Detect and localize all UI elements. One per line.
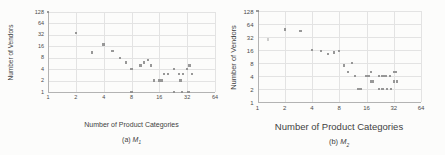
data-point bbox=[147, 59, 149, 61]
data-point bbox=[378, 75, 380, 77]
data-point bbox=[372, 80, 374, 82]
data-point bbox=[111, 50, 113, 52]
x-tick-label: 2 bbox=[275, 105, 295, 111]
data-point bbox=[393, 80, 395, 82]
x-axis bbox=[258, 102, 422, 103]
data-point bbox=[186, 68, 188, 70]
data-point bbox=[188, 64, 190, 66]
chart-m1-plot-area: 12864321684211248163264 bbox=[0, 0, 222, 155]
chart-m2-y-axis-label: Number of Vendors bbox=[229, 13, 238, 103]
chart-m2: 12864321684211248163264 Number of Vendor… bbox=[223, 0, 445, 155]
data-point bbox=[139, 64, 141, 66]
data-point bbox=[187, 91, 189, 93]
chart-m1-y-axis-label: Number of Vendors bbox=[7, 12, 14, 94]
data-point bbox=[320, 50, 322, 52]
data-point bbox=[256, 10, 258, 12]
data-point bbox=[390, 88, 392, 90]
data-point bbox=[284, 28, 286, 30]
y-tick-label: 128 bbox=[24, 10, 44, 16]
data-point bbox=[102, 43, 104, 45]
x-tick-label: 8 bbox=[122, 95, 142, 101]
x-tick-label: 1 bbox=[248, 105, 268, 111]
x-gridline bbox=[312, 11, 313, 102]
data-point bbox=[351, 62, 353, 64]
data-point bbox=[378, 88, 380, 90]
y-tick-label: 4 bbox=[24, 67, 44, 73]
data-point bbox=[354, 75, 356, 77]
data-point bbox=[191, 73, 193, 75]
data-point bbox=[389, 75, 391, 77]
data-point bbox=[178, 73, 180, 75]
data-point bbox=[173, 91, 175, 93]
data-point bbox=[311, 49, 313, 51]
x-tick-label: 16 bbox=[149, 95, 169, 101]
chart-m2-caption: (b) M2 bbox=[257, 137, 421, 148]
data-point bbox=[381, 88, 383, 90]
data-point bbox=[347, 71, 349, 73]
data-point bbox=[360, 88, 362, 90]
data-point bbox=[179, 79, 181, 81]
data-point bbox=[327, 53, 329, 55]
y-tick-label: 2 bbox=[24, 78, 44, 84]
x-gridline bbox=[394, 11, 395, 102]
data-point bbox=[119, 57, 121, 59]
data-point bbox=[267, 38, 269, 40]
data-point bbox=[143, 61, 145, 63]
data-point bbox=[173, 68, 175, 70]
data-point bbox=[338, 50, 340, 52]
data-point bbox=[384, 75, 386, 77]
x-tick-label: 16 bbox=[357, 105, 377, 111]
data-point bbox=[153, 79, 155, 81]
y-axis bbox=[48, 12, 49, 92]
data-point bbox=[91, 51, 93, 53]
data-point bbox=[167, 73, 169, 75]
y-tick-label: 64 bbox=[24, 21, 44, 27]
data-point bbox=[395, 71, 397, 73]
caption-prefix: (b) bbox=[329, 137, 338, 146]
data-point bbox=[130, 91, 132, 93]
data-point bbox=[386, 88, 388, 90]
y-tick-label: 8 bbox=[24, 55, 44, 61]
data-point bbox=[161, 79, 163, 81]
x-gridline bbox=[285, 11, 286, 102]
x-tick-label: 8 bbox=[329, 105, 349, 111]
x-gridline bbox=[339, 11, 340, 102]
x-gridline bbox=[76, 12, 77, 92]
x-gridline bbox=[367, 11, 368, 102]
x-tick-label: 4 bbox=[94, 95, 114, 101]
chart-m1: 12864321684211248163264 Number of Vendor… bbox=[0, 0, 222, 155]
x-gridline bbox=[215, 12, 216, 92]
data-point bbox=[125, 61, 127, 63]
data-point bbox=[370, 71, 372, 73]
chart-m2-x-axis-label: Number of Product Categories bbox=[241, 121, 437, 132]
data-point bbox=[75, 32, 77, 34]
x-tick-label: 4 bbox=[302, 105, 322, 111]
y-tick-label: 16 bbox=[24, 44, 44, 50]
data-point bbox=[368, 75, 370, 77]
x-tick-label: 64 bbox=[411, 105, 431, 111]
y-axis bbox=[258, 11, 259, 102]
x-gridline bbox=[104, 12, 105, 92]
chart-m1-caption: (a) M1 bbox=[48, 136, 215, 145]
y-tick-label: 32 bbox=[24, 32, 44, 38]
x-gridline bbox=[132, 12, 133, 92]
data-point bbox=[181, 91, 183, 93]
caption-prefix: (a) bbox=[122, 136, 131, 143]
data-point bbox=[47, 11, 49, 13]
data-point bbox=[343, 64, 345, 66]
data-point bbox=[130, 68, 132, 70]
data-point bbox=[396, 80, 398, 82]
x-tick-label: 32 bbox=[177, 95, 197, 101]
data-point bbox=[299, 30, 301, 32]
x-tick-label: 1 bbox=[38, 95, 58, 101]
data-point bbox=[163, 73, 165, 75]
caption-subscript: 1 bbox=[138, 140, 141, 145]
caption-subscript: 2 bbox=[346, 143, 349, 148]
x-tick-label: 2 bbox=[66, 95, 86, 101]
chart-m1-x-axis-label: Number of Product Categories bbox=[48, 121, 215, 128]
x-gridline bbox=[187, 12, 188, 92]
x-tick-label: 32 bbox=[384, 105, 404, 111]
data-point bbox=[182, 73, 184, 75]
data-point bbox=[150, 64, 152, 66]
x-tick-label: 64 bbox=[205, 95, 225, 101]
